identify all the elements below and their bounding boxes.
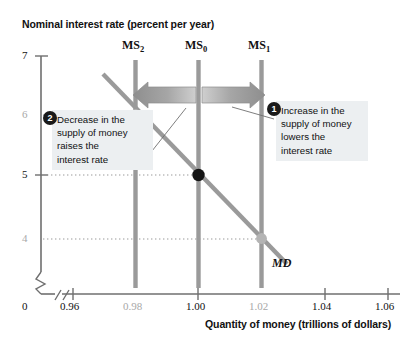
y-tick-label-5: 5 (22, 168, 28, 180)
y-axis-break (36, 272, 45, 294)
x-tick-label-1-04: 1.04 (312, 300, 331, 312)
x-tick-label-1-00: 1.00 (186, 300, 205, 312)
annotation-2-line-3: raises the (57, 139, 148, 152)
annotation-2-line-1: Decrease in the (57, 113, 148, 126)
y-tick-label-6: 6 (22, 108, 28, 120)
curve-label-md: MD (272, 256, 291, 271)
x-tick-label-1-02: 1.02 (249, 300, 268, 312)
y-axis-title: Nominal interest rate (percent per year) (22, 18, 214, 30)
annotation-1-line-4: interest rate (281, 144, 363, 157)
curve-label-ms2-sub: 2 (140, 44, 144, 54)
annotation-badge-1: 1 (267, 102, 281, 116)
curve-label-ms1: MS1 (248, 38, 270, 54)
curve-label-ms0: MS0 (185, 38, 207, 54)
decrease-shift-arrow (133, 82, 196, 108)
origin-label: 0 (22, 300, 28, 312)
curve-label-ms2-text: MS (122, 38, 140, 52)
x-tick-label-0-98: 0.98 (123, 300, 142, 312)
curve-label-ms1-sub: 1 (266, 44, 270, 54)
annotation-2-line-2: supply of money (57, 126, 148, 139)
annotation-2-line-4: interest rate (57, 153, 148, 166)
equilibrium-dot-ms1 (256, 233, 267, 244)
curve-label-ms1-text: MS (248, 38, 266, 52)
annotation-1-line-2: supply of money (281, 117, 363, 130)
annotation-badge-2: 2 (43, 111, 57, 125)
curve-label-ms0-text: MS (185, 38, 203, 52)
y-tick-label-4: 4 (22, 232, 28, 244)
annotation-1-line-1: Increase in the (281, 104, 363, 117)
annotation-callout-2: Decrease in the supply of money raises t… (52, 110, 153, 170)
annotation-callout-1: Increase in the supply of money lowers t… (276, 101, 368, 161)
increase-shift-arrow (202, 82, 265, 108)
x-axis-break (55, 290, 69, 300)
annotation-1-line-3: lowers the (281, 130, 363, 143)
equilibrium-dot-ms0 (192, 169, 204, 181)
x-tick-label-1-06: 1.06 (375, 300, 394, 312)
chart-canvas: Nominal interest rate (percent per year)… (0, 0, 412, 361)
curve-label-ms0-sub: 0 (203, 44, 207, 54)
x-tick-label-0-96: 0.96 (60, 300, 79, 312)
x-axis-title: Quantity of money (trillions of dollars) (205, 318, 391, 330)
y-tick-label-7: 7 (22, 49, 28, 61)
curve-label-ms2: MS2 (122, 38, 144, 54)
